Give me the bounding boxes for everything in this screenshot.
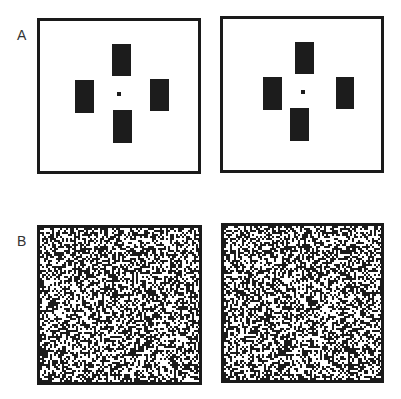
- panel-a-label: A: [17, 28, 26, 42]
- stimulus-rect-left: [75, 80, 94, 113]
- random-dot-pattern-right: [224, 226, 381, 380]
- stimulus-rect-top: [112, 44, 131, 76]
- stimulus-rect-left: [263, 77, 282, 110]
- stimulus-rect-bottom: [290, 108, 309, 141]
- fixation-dot: [301, 90, 305, 94]
- panel-b-right-image: [221, 223, 384, 383]
- panel-b-left-image: [37, 225, 202, 385]
- stimulus-rect-right: [150, 79, 169, 111]
- panel-a-right-image: [220, 16, 384, 173]
- stimulus-rect-right: [336, 77, 354, 109]
- panel-a-left-image: [37, 18, 201, 174]
- panel-b-label: B: [17, 234, 26, 248]
- stimulus-rect-bottom: [113, 110, 132, 143]
- random-dot-pattern-left: [40, 228, 199, 382]
- stimulus-rect-top: [295, 42, 314, 74]
- fixation-dot: [117, 92, 121, 96]
